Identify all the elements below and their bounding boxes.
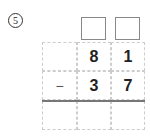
digit-minuend-ones: 1	[111, 42, 145, 71]
digit-minuend-tens: 8	[77, 42, 111, 71]
cell-r0-c0	[42, 42, 77, 71]
answer-box-ones[interactable]	[115, 17, 140, 40]
result-cell-tens[interactable]	[77, 101, 111, 130]
answer-box-tens[interactable]	[81, 17, 106, 40]
result-cell-ones[interactable]	[111, 101, 145, 130]
digit-subtrahend-ones: 7	[111, 71, 145, 100]
subtraction-grid: 8 1 − 3 7	[42, 42, 145, 130]
result-cell-0[interactable]	[42, 101, 77, 130]
problem-number: 5	[8, 13, 23, 28]
sum-line	[42, 100, 145, 102]
minus-sign: −	[42, 71, 77, 100]
digit-subtrahend-tens: 3	[77, 71, 111, 100]
